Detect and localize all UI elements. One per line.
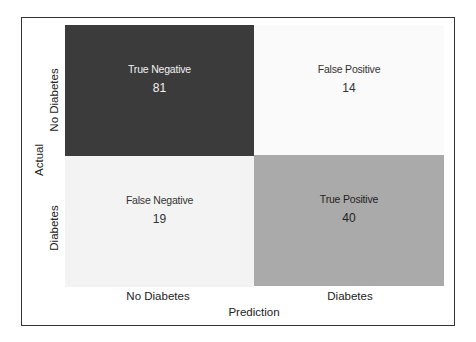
cell-label: False Positive: [318, 63, 381, 75]
cell-value: 81: [153, 81, 166, 95]
y-tick-no-diabetes: No Diabetes: [48, 68, 60, 131]
y-tick-diabetes: Diabetes: [48, 205, 60, 250]
cell-true-negative: True Negative 81: [65, 25, 254, 156]
cell-value: 40: [342, 211, 355, 225]
cell-true-positive: True Positive 40: [254, 155, 444, 286]
x-tick-no-diabetes: No Diabetes: [126, 290, 189, 302]
cell-label: False Negative: [126, 194, 193, 206]
cell-label: True Positive: [320, 193, 378, 205]
cell-label: True Negative: [128, 63, 191, 75]
cell-false-positive: False Positive 14: [254, 25, 444, 156]
y-axis-label: Actual: [33, 144, 45, 176]
cell-value: 19: [153, 212, 166, 226]
x-tick-diabetes: Diabetes: [327, 290, 372, 302]
x-axis-label: Prediction: [228, 306, 279, 318]
cell-false-negative: False Negative 19: [65, 156, 254, 287]
cell-value: 14: [342, 81, 355, 95]
